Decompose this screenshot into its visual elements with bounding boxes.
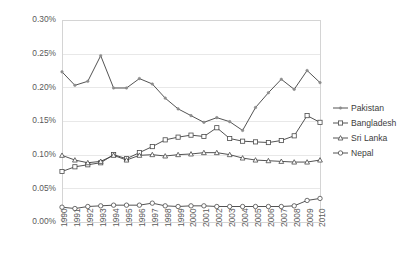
x-tick-label: 2000: [188, 208, 198, 227]
data-point-marker: [280, 78, 283, 81]
legend-marker-icon: [338, 151, 342, 155]
data-point-marker: [177, 108, 180, 111]
data-point-marker: [216, 116, 219, 119]
x-tick-label: 2009: [305, 208, 315, 227]
legend-label: Pakistan: [351, 103, 384, 113]
data-point-marker: [190, 114, 193, 117]
y-tick-label: 0.00%: [32, 216, 56, 226]
legend-item-bangladesh[interactable]: Bangladesh: [333, 118, 397, 128]
y-tick-label: 0.15%: [32, 115, 56, 125]
chart-plot-svg: 0.00%0.05%0.10%0.15%0.20%0.25%0.30% 1990…: [0, 0, 417, 268]
data-point-marker: [125, 87, 128, 90]
data-point-marker: [86, 204, 90, 208]
data-point-marker: [253, 204, 257, 208]
x-tick-label: 1999: [176, 208, 186, 227]
data-point-marker: [293, 88, 296, 91]
y-tick-label: 0.05%: [32, 183, 56, 193]
y-tick-label: 0.10%: [32, 149, 56, 159]
data-point-marker: [60, 169, 64, 173]
data-point-marker: [266, 204, 270, 208]
data-point-marker: [318, 158, 323, 162]
x-tick-label: 1994: [111, 208, 121, 227]
data-point-marker: [74, 84, 77, 87]
data-point-marker: [228, 120, 231, 123]
data-point-marker: [99, 54, 102, 57]
data-point-marker: [137, 203, 141, 207]
x-tick-label: 2005: [253, 208, 263, 227]
x-axis-tick-labels: 1990199119921993199419951996199719981999…: [59, 208, 327, 227]
data-point-marker: [112, 87, 115, 90]
y-axis-tick-labels: 0.00%0.05%0.10%0.15%0.20%0.25%0.30%: [32, 14, 56, 226]
data-point-marker: [202, 204, 206, 208]
x-tick-label: 2007: [279, 208, 289, 227]
x-tick-label: 1997: [150, 208, 160, 227]
data-point-marker: [87, 80, 90, 83]
data-point-marker: [215, 204, 219, 208]
data-point-marker: [305, 198, 309, 202]
data-point-marker: [241, 139, 245, 143]
data-point-marker: [306, 69, 309, 72]
legend-item-sri-lanka[interactable]: Sri Lanka: [333, 133, 388, 143]
legend-label: Bangladesh: [351, 118, 397, 128]
x-tick-label: 1995: [124, 208, 134, 227]
data-point-marker: [215, 126, 219, 130]
data-point-marker: [305, 114, 309, 118]
chart-legend: PakistanBangladeshSri LankaNepal: [333, 103, 397, 158]
data-point-marker: [292, 204, 296, 208]
data-point-marker: [163, 138, 167, 142]
y-tick-label: 0.30%: [32, 14, 56, 24]
x-tick-label: 2004: [240, 208, 250, 227]
data-point-marker: [73, 165, 77, 169]
data-point-marker: [176, 204, 180, 208]
data-point-marker: [240, 204, 244, 208]
legend-item-pakistan[interactable]: Pakistan: [333, 103, 384, 113]
legend-label: Sri Lanka: [351, 133, 388, 143]
data-point-marker: [319, 81, 322, 84]
data-point-marker: [163, 204, 167, 208]
x-tick-label: 1990: [59, 208, 69, 227]
data-point-marker: [228, 204, 232, 208]
series-sri-lanka: [60, 150, 323, 165]
data-point-marker: [99, 204, 103, 208]
data-point-marker: [111, 203, 115, 207]
gridlines-group: [62, 21, 320, 223]
data-point-marker: [150, 201, 154, 205]
x-tick-label: 1992: [85, 208, 95, 227]
y-tick-label: 0.25%: [32, 48, 56, 58]
data-point-marker: [164, 97, 167, 100]
data-point-marker: [279, 204, 283, 208]
data-point-marker: [176, 135, 180, 139]
data-series-group: [60, 54, 323, 210]
legend-item-nepal[interactable]: Nepal: [333, 148, 374, 158]
series-line: [62, 56, 320, 131]
legend-marker-icon: [339, 107, 342, 110]
data-point-marker: [318, 120, 322, 124]
data-point-marker: [60, 205, 64, 209]
data-point-marker: [267, 91, 270, 94]
data-point-marker: [189, 133, 193, 137]
series-pakistan: [61, 54, 322, 131]
data-point-marker: [254, 106, 257, 109]
data-point-marker: [138, 77, 141, 80]
data-point-marker: [189, 204, 193, 208]
data-point-marker: [151, 83, 154, 86]
data-point-marker: [292, 134, 296, 138]
x-tick-label: 1998: [163, 208, 173, 227]
x-tick-label: 2010: [317, 208, 327, 227]
series-bangladesh: [60, 114, 322, 174]
data-point-marker: [253, 140, 257, 144]
data-point-marker: [228, 136, 232, 140]
data-point-marker: [150, 144, 154, 148]
x-tick-label: 2002: [214, 208, 224, 227]
data-point-marker: [202, 134, 206, 138]
data-point-marker: [241, 129, 244, 132]
data-point-marker: [203, 121, 206, 124]
x-tick-label: 2001: [201, 208, 211, 227]
data-point-marker: [73, 206, 77, 210]
x-tick-label: 1993: [98, 208, 108, 227]
data-point-marker: [279, 138, 283, 142]
data-point-marker: [266, 140, 270, 144]
x-tick-label: 2006: [266, 208, 276, 227]
data-point-marker: [124, 203, 128, 207]
x-tick-label: 2003: [227, 208, 237, 227]
